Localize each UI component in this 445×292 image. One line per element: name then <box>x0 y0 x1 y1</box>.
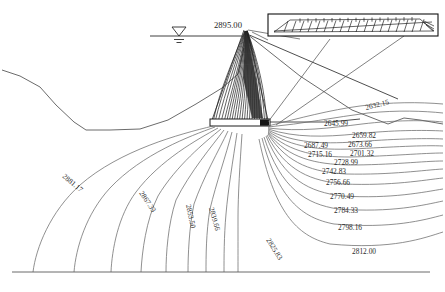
contour-label: 2839.66 <box>207 206 222 232</box>
contour-label: 2770.49 <box>330 192 354 201</box>
contour-label: 2728.99 <box>334 158 358 167</box>
contour-label: 2812.00 <box>352 247 376 256</box>
contour-label: 2632.15 <box>364 97 390 112</box>
contour-label: 2645.99 <box>324 119 348 128</box>
equipotential-contours-left <box>33 126 242 272</box>
water-level-label: 2895.00 <box>214 20 242 30</box>
contour-label: 2715.16 <box>308 150 332 159</box>
dam-base-slab <box>210 119 270 126</box>
ground-surface-profile <box>2 48 244 130</box>
contour-label: 2687.49 <box>304 141 328 150</box>
contour-label: 2742.83 <box>322 167 346 176</box>
contour-label: 2701.32 <box>350 149 374 158</box>
contour-label: 2825.83 <box>264 236 285 261</box>
contour-label: 2659.82 <box>352 131 376 140</box>
contour-label: 2673.66 <box>348 140 372 149</box>
contour-label: 2853.50 <box>184 204 198 230</box>
drawing-canvas: 2895.002632.152645.992659.822687.492673.… <box>0 0 445 292</box>
contour-label: 2798.16 <box>338 223 362 232</box>
contour-label: 2784.33 <box>334 206 358 215</box>
contour-label: 2881.17 <box>61 172 85 195</box>
drainage-blanket-inset <box>268 14 438 36</box>
contour-label: 2756.66 <box>326 178 350 187</box>
